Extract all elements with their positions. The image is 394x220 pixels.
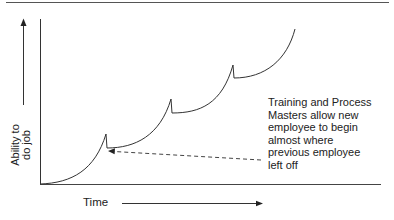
annotation-text: Training and Process Masters allow new e… xyxy=(268,96,372,172)
annotation-line-6: left off xyxy=(268,159,372,172)
y-direction-arrow-icon xyxy=(21,19,27,106)
dashed-arrowhead-icon xyxy=(108,148,115,154)
annotation-line-2: Masters allow new xyxy=(268,109,372,122)
annotation-line-4: almost where xyxy=(268,134,372,147)
ability-curve xyxy=(40,29,295,184)
time-direction-arrow-icon xyxy=(122,201,263,206)
y-axis-label: Ability to do job xyxy=(10,124,32,166)
y-axis-label-line-2: do job xyxy=(21,124,32,166)
annotation-line-3: employee to begin xyxy=(268,121,372,134)
annotation-dashed-arrow xyxy=(114,152,261,161)
annotation-line-1: Training and Process xyxy=(268,96,372,109)
annotation-line-5: previous employee xyxy=(268,146,372,159)
x-axis-label: Time xyxy=(83,196,108,209)
